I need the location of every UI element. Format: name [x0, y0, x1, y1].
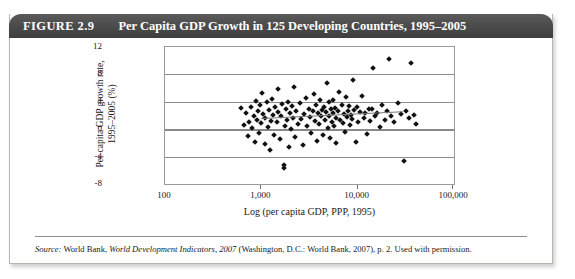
data-point: [256, 130, 262, 136]
data-point: [313, 102, 319, 108]
x-tick-1,000: [260, 185, 261, 189]
data-point: [291, 84, 297, 90]
chart-container: Per capita GDP growth rate, 1995–2005 (%…: [9, 38, 553, 226]
source-text-part2: (Washington, D.C.: World Bank, 2007), p.…: [236, 244, 471, 254]
data-point: [331, 123, 337, 129]
y-tick-label--8: -8: [62, 178, 102, 188]
x-tick-label-100,000: 100,000: [438, 190, 467, 200]
data-point: [340, 120, 346, 126]
data-point: [336, 89, 342, 95]
y-tick-label-8: 8: [62, 68, 102, 78]
data-point: [297, 100, 303, 106]
y-axis-title-line1: Per capita GDP growth rate,: [95, 44, 107, 184]
plot-frame: [164, 46, 455, 185]
data-point: [271, 132, 277, 138]
source-publication-title: World Development Indicators, 2007: [109, 244, 236, 254]
data-point: [370, 65, 376, 71]
data-point: [379, 102, 385, 108]
data-point: [248, 104, 254, 110]
data-point: [241, 122, 247, 128]
data-point: [259, 90, 265, 96]
data-point: [245, 133, 251, 139]
data-point: [320, 133, 326, 139]
source-label: Source:: [35, 244, 61, 254]
data-point: [401, 159, 407, 165]
data-point: [267, 147, 273, 153]
data-point: [327, 135, 333, 141]
data-point: [388, 113, 394, 119]
x-tick-label-100: 100: [157, 190, 171, 200]
data-point: [274, 120, 280, 126]
source-note: Source: World Bank, World Development In…: [35, 244, 535, 255]
data-point: [293, 108, 299, 114]
data-point: [275, 86, 281, 92]
figure-root: FIGURE 2.9 Per Capita GDP Growth in 125 …: [0, 0, 575, 279]
data-point: [277, 136, 283, 142]
x-tick-10,000: [357, 185, 358, 189]
data-point: [246, 119, 252, 125]
gridline-4: [165, 102, 454, 103]
x-tick-label-10,000: 10,000: [344, 190, 369, 200]
data-point: [355, 120, 361, 126]
data-point: [258, 120, 264, 126]
figure-number-label: FIGURE 2.9: [23, 19, 94, 34]
data-point: [386, 56, 392, 62]
data-point: [361, 115, 367, 121]
data-point: [282, 123, 288, 129]
y-axis-title-line2: 1995–2005 (%): [107, 44, 119, 184]
x-axis-title: Log (per capita GDP, PPP, 1995): [164, 206, 455, 217]
y-tick-label--4: -4: [62, 151, 102, 161]
data-point: [316, 122, 322, 128]
gridline--4: [165, 157, 454, 158]
source-text-part1: World Bank,: [61, 244, 109, 254]
y-tick-label-0: 0: [62, 123, 102, 133]
data-point: [311, 91, 317, 97]
data-point: [408, 61, 414, 67]
x-tick-100,000: [452, 185, 453, 189]
y-axis-title: Per capita GDP growth rate, 1995–2005 (%…: [95, 44, 119, 184]
data-point: [382, 117, 388, 123]
data-point: [308, 130, 314, 136]
data-point: [266, 107, 272, 113]
data-point: [364, 131, 370, 137]
data-point: [324, 80, 330, 86]
data-point: [264, 100, 270, 106]
data-point: [300, 142, 306, 148]
source-divider: [35, 236, 527, 237]
data-point: [333, 140, 339, 146]
data-point: [314, 138, 320, 144]
data-point: [292, 134, 298, 140]
data-point: [413, 121, 419, 127]
data-point: [238, 105, 244, 111]
data-point: [262, 141, 268, 147]
data-point: [348, 122, 354, 128]
data-point: [252, 139, 258, 145]
figure-title-bar: FIGURE 2.9 Per Capita GDP Growth in 125 …: [9, 14, 553, 38]
y-tick-label-12: 12: [62, 41, 102, 51]
data-point: [391, 119, 397, 125]
data-point: [286, 144, 292, 150]
page-title: Per Capita GDP Growth in 125 Developing …: [118, 19, 466, 34]
data-point: [369, 106, 375, 112]
gridline-8: [165, 74, 454, 75]
data-point: [367, 118, 373, 124]
data-point: [403, 109, 409, 115]
x-tick-label-1,000: 1,000: [250, 190, 270, 200]
data-point: [303, 95, 309, 101]
data-point: [353, 139, 359, 145]
data-point: [350, 77, 356, 83]
data-point: [359, 93, 365, 99]
data-point: [310, 109, 316, 115]
y-tick-label-4: 4: [62, 96, 102, 106]
data-point: [395, 100, 401, 106]
data-point: [343, 94, 349, 100]
data-point: [244, 111, 250, 117]
